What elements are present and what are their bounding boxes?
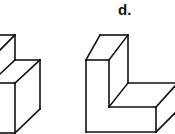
figure-d-l-block bbox=[86, 35, 175, 132]
figure-stepped-block bbox=[0, 35, 40, 133]
isometric-figures bbox=[0, 0, 175, 134]
